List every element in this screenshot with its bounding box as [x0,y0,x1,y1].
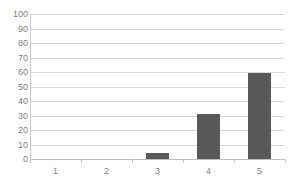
gridline [30,43,285,44]
y-axis-tick-label: 60 [2,68,28,77]
x-axis-tick-label: 5 [240,166,280,176]
y-axis-tick-label: 40 [2,97,28,106]
y-axis-line [30,14,31,159]
bar [197,114,220,159]
gridline [30,87,285,88]
x-axis-tick-label: 1 [36,166,76,176]
x-axis-tick-mark [183,159,184,163]
y-axis-tick-label: 80 [2,39,28,48]
gridline [30,58,285,59]
y-axis-tick-label: 90 [2,25,28,34]
y-axis-tick-labels: 100 90 80 70 60 50 40 30 20 10 0 [0,14,28,159]
y-axis-tick-label: 10 [2,141,28,150]
x-axis-tick-mark [285,159,286,163]
y-axis-tick-label: 70 [2,54,28,63]
x-axis-line [30,159,285,160]
y-axis-tick-label: 0 [2,155,28,164]
x-axis-tick-label: 3 [138,166,178,176]
x-axis-tick-label: 2 [87,166,127,176]
bar [248,73,271,159]
plot-area [30,14,285,159]
gridline [30,145,285,146]
y-axis-tick-label: 30 [2,112,28,121]
y-axis-tick-label: 50 [2,83,28,92]
gridline [30,101,285,102]
y-axis-tick-label: 20 [2,126,28,135]
gridline [30,116,285,117]
gridline [30,29,285,30]
x-axis-tick-mark [132,159,133,163]
gridline [30,130,285,131]
x-axis-tick-label: 4 [189,166,229,176]
x-axis-tick-mark [81,159,82,163]
gridline [30,14,285,15]
y-axis-tick-label: 100 [2,10,28,19]
x-axis-tick-mark [30,159,31,163]
gridline [30,72,285,73]
bar-chart: 100 90 80 70 60 50 40 30 20 10 0 12345 [0,0,290,184]
x-axis-tick-mark [234,159,235,163]
